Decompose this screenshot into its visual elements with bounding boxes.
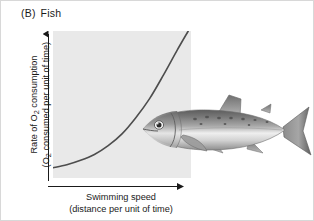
y-axis-label-line2: (O2 consumed per unit of time)	[41, 22, 53, 188]
x-axis-label-line2: (distance per unit of time)	[31, 203, 211, 215]
x-axis-label-line1: Swimming speed	[31, 191, 211, 203]
panel-title-text: Fish	[41, 7, 62, 19]
panel-letter: (B)	[21, 7, 36, 19]
caudal-fin	[283, 107, 311, 155]
fish-head	[143, 111, 180, 148]
fish-illustration	[137, 93, 313, 169]
adipose-fin	[261, 104, 271, 113]
x-axis-label: Swimming speed (distance per unit of tim…	[31, 191, 211, 215]
fish-eye-highlight	[157, 123, 159, 125]
y-axis-label: Rate of O2 consumption (O2 consumed per …	[29, 22, 52, 188]
y-axis-label-line1: Rate of O2 consumption	[29, 22, 41, 188]
fish-svg	[137, 93, 313, 169]
figure-panel: (B)Fish Rate of O2 consumption (O2 consu…	[0, 0, 314, 221]
panel-title: (B)Fish	[21, 7, 61, 19]
